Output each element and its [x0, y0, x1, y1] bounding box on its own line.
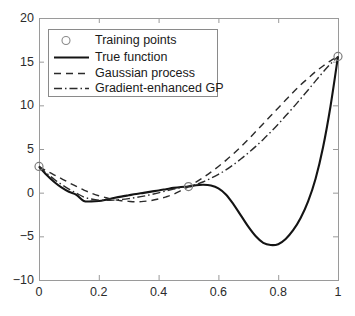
- y-tick-label: 0: [0, 187, 34, 200]
- x-tick-label: 0.4: [134, 286, 184, 299]
- legend-item-training-points: Training points: [49, 32, 217, 49]
- legend-item-true-function: True function: [49, 49, 217, 66]
- legend-item-gradient-enhanced-gp: Gradient-enhanced GP: [49, 80, 217, 97]
- x-tick-label: 0.8: [253, 286, 303, 299]
- y-tick-label: 20: [0, 12, 34, 25]
- y-tick-label: 10: [0, 99, 34, 112]
- y-tick-label: 15: [0, 56, 34, 69]
- legend-label-training-points: Training points: [95, 34, 177, 47]
- x-tick-label: 0.6: [193, 286, 243, 299]
- y-tick-label: −5: [0, 230, 34, 243]
- x-tick-label: 0.2: [74, 286, 124, 299]
- legend-label-true-function: True function: [95, 51, 168, 64]
- legend-marker-circle-icon: [49, 32, 95, 49]
- y-tick-label: 5: [0, 143, 34, 156]
- legend: Training points True function Gaussian p…: [48, 29, 218, 97]
- x-tick-label: 0: [14, 286, 64, 299]
- y-tick-label: −10: [0, 274, 34, 287]
- legend-line-solid-icon: [49, 49, 95, 66]
- legend-line-dashdot-icon: [49, 80, 95, 97]
- chart-figure: 20151050−5−10 00.20.40.60.81 Training po…: [0, 0, 355, 316]
- legend-label-gradient-enhanced-gp: Gradient-enhanced GP: [95, 82, 224, 95]
- x-tick-label: 1: [313, 286, 355, 299]
- legend-label-gaussian-process: Gaussian process: [95, 67, 195, 80]
